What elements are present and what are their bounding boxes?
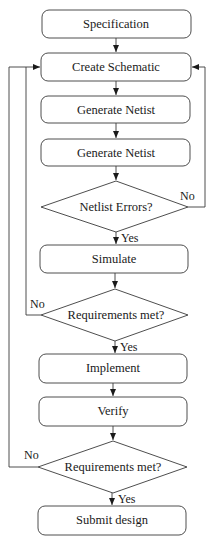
edge-label-no: No [180, 189, 195, 203]
node-label: Generate Netist [77, 146, 156, 160]
edge-requirements-1-no [26, 67, 41, 315]
node-label: Create Schematic [72, 60, 160, 74]
flowchart: Specification Create Schematic Generate … [0, 0, 209, 548]
node-specification: Specification [42, 10, 191, 38]
node-label: Netlist Errors? [79, 200, 153, 214]
edge-requirements-2-no [9, 67, 38, 467]
node-simulate: Simulate [40, 245, 188, 273]
node-create-schematic: Create Schematic [41, 53, 191, 81]
node-requirements-met-1: Requirements met? [41, 289, 188, 341]
edge-label-yes: Yes [120, 340, 138, 354]
node-label: Specification [83, 17, 150, 31]
node-submit-design: Submit design [38, 506, 186, 535]
edge-netlist-errors-no [188, 67, 205, 207]
node-verify: Verify [39, 397, 187, 426]
node-generate-netlist-1: Generate Netist [41, 96, 190, 123]
node-label: Verify [97, 404, 129, 418]
node-requirements-met-2: Requirements met? [38, 441, 187, 493]
edge-label-yes: Yes [118, 492, 136, 506]
node-label: Requirements met? [65, 460, 162, 474]
edge-label-yes: Yes [121, 231, 139, 245]
node-label: Submit design [76, 513, 149, 527]
edge-label-no: No [30, 297, 45, 311]
edge-label-no: No [24, 448, 39, 462]
node-implement: Implement [39, 354, 187, 383]
node-label: Requirements met? [68, 308, 165, 322]
node-generate-netlist-2: Generate Netist [41, 139, 190, 166]
node-label: Simulate [92, 252, 137, 266]
node-netlist-errors: Netlist Errors? [41, 181, 188, 232]
node-label: Implement [86, 361, 141, 375]
node-label: Generate Netist [77, 103, 156, 117]
